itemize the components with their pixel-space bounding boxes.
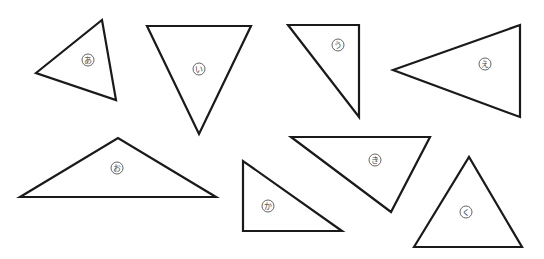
triangle-shape bbox=[288, 25, 359, 117]
triangles-diagram: あいうえおかきく bbox=[0, 0, 544, 259]
triangle-shape bbox=[414, 157, 522, 247]
triangle-shape bbox=[243, 161, 342, 231]
triangle-7: き bbox=[291, 137, 430, 212]
triangle-shape bbox=[36, 20, 116, 100]
triangle-label: お bbox=[113, 164, 121, 173]
triangle-label: う bbox=[334, 41, 342, 50]
triangle-shape bbox=[291, 137, 430, 212]
triangle-shape bbox=[147, 26, 251, 134]
triangle-2: い bbox=[147, 26, 251, 134]
triangle-4: え bbox=[393, 25, 520, 117]
triangle-label: あ bbox=[84, 56, 92, 65]
triangle-8: く bbox=[414, 157, 522, 247]
triangle-shape bbox=[393, 25, 520, 117]
triangle-label: え bbox=[481, 60, 489, 69]
triangle-5: お bbox=[20, 138, 216, 197]
triangle-label: き bbox=[371, 156, 379, 165]
triangle-label: い bbox=[195, 65, 203, 74]
triangle-6: か bbox=[243, 161, 342, 231]
triangle-1: あ bbox=[36, 20, 116, 100]
triangle-3: う bbox=[288, 25, 359, 117]
triangle-label: く bbox=[462, 208, 470, 217]
triangle-label: か bbox=[264, 202, 272, 211]
